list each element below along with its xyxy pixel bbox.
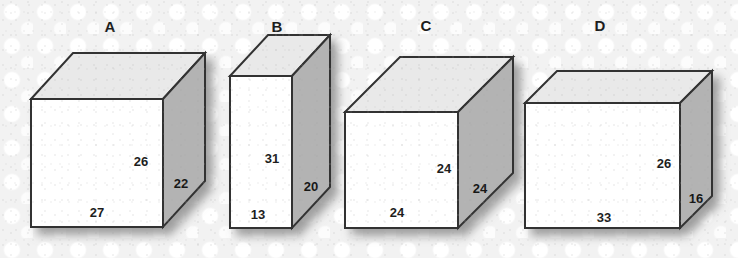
- box-d-drawing: [0, 0, 738, 258]
- box-d: D 33 26 16: [0, 0, 738, 258]
- box-d-height-label: 26: [657, 156, 671, 171]
- figure-canvas: A 27 26 22 B 13 31 20: [0, 0, 738, 258]
- box-d-width-label: 33: [597, 210, 611, 225]
- box-d-solid: [525, 71, 712, 228]
- box-d-depth-label: 16: [689, 191, 703, 206]
- box-d-label: D: [594, 17, 605, 34]
